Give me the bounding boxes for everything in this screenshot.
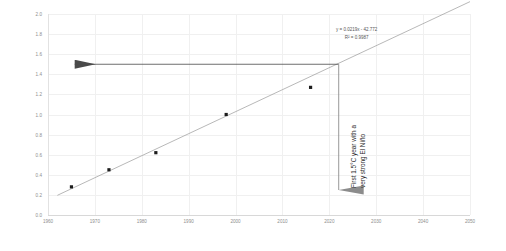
data-point-marker: [309, 86, 312, 89]
crossing-year-note-line1: First 1.5°C year with a: [350, 125, 357, 188]
data-point-marker: [107, 168, 110, 171]
crossing-year-note-line2: very strong El Niño: [359, 134, 366, 188]
crossing-year-note: First 1.5°C year with a very strong El N…: [350, 88, 470, 188]
data-point-marker: [154, 151, 157, 154]
regression-equation: y = 0.0219x - 42.772: [336, 26, 377, 34]
data-point-marker: [225, 113, 228, 116]
temperature-trend-chart: TEMPERATURE, °C VS. 1850-1900 BASELINE 0…: [0, 0, 506, 251]
regression-r-squared: R² = 0.9987: [336, 34, 377, 42]
data-point-marker: [70, 185, 73, 188]
regression-equation-box: y = 0.0219x - 42.772 R² = 0.9987: [336, 26, 377, 42]
